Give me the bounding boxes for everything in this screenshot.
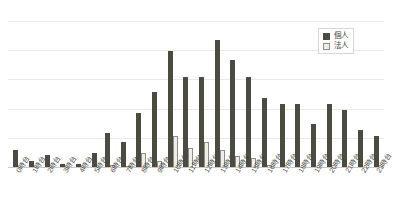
bar-slot — [227, 22, 243, 168]
bar-slot — [102, 22, 118, 168]
bar-kojin — [358, 130, 363, 168]
bar-kojin — [311, 124, 316, 168]
bar-slot — [368, 22, 384, 168]
x-label-slot: 6時台 — [102, 168, 118, 210]
x-label-slot: 9時台 — [149, 168, 165, 210]
bar-slot — [165, 22, 181, 168]
legend-label-kojin: 個人 — [334, 32, 348, 40]
x-label-slot: 16時台 — [259, 168, 275, 210]
bar-slot — [180, 22, 196, 168]
x-label-slot: 4時台 — [71, 168, 87, 210]
x-label-slot: 5時台 — [86, 168, 102, 210]
x-label-slot: 11時台 — [180, 168, 196, 210]
bar-slot — [118, 22, 134, 168]
bar-slot — [8, 22, 24, 168]
x-label-slot: 8時台 — [133, 168, 149, 210]
legend-swatch-kojin — [323, 33, 330, 40]
x-label-slot: 18時台 — [290, 168, 306, 210]
bar-slot — [353, 22, 369, 168]
x-label-slot: 7時台 — [118, 168, 134, 210]
bar-kojin — [215, 40, 220, 168]
x-label-slot: 12時台 — [196, 168, 212, 210]
x-label-slot: 2時台 — [39, 168, 55, 210]
x-label-slot: 3時台 — [55, 168, 71, 210]
x-label-slot: 23時台 — [368, 168, 384, 210]
legend-swatch-hojin — [323, 43, 330, 50]
bar-slot — [196, 22, 212, 168]
x-label-slot: 1時台 — [24, 168, 40, 210]
bar-slot — [243, 22, 259, 168]
x-label-slot: 0時台 — [8, 168, 24, 210]
bar-slot — [55, 22, 71, 168]
x-label-slot: 14時台 — [227, 168, 243, 210]
bar-slot — [24, 22, 40, 168]
bar-slot — [133, 22, 149, 168]
x-label-slot: 21時台 — [337, 168, 353, 210]
legend: 個人 法人 — [318, 28, 354, 54]
legend-item-hojin: 法人 — [323, 42, 348, 50]
x-label-slot: 15時台 — [243, 168, 259, 210]
bar-slot — [259, 22, 275, 168]
x-label-slot: 19時台 — [306, 168, 322, 210]
bar-slot — [212, 22, 228, 168]
x-label-slot: 10時台 — [165, 168, 181, 210]
bar-slot — [86, 22, 102, 168]
bar-slot — [274, 22, 290, 168]
x-axis-labels: 0時台1時台2時台3時台4時台5時台6時台7時台8時台9時台10時台11時台12… — [8, 168, 384, 210]
bar-slot — [71, 22, 87, 168]
bar-slot — [39, 22, 55, 168]
bar-slot — [290, 22, 306, 168]
x-label-slot: 22時台 — [353, 168, 369, 210]
x-label-slot: 17時台 — [274, 168, 290, 210]
x-label-slot: 13時台 — [212, 168, 228, 210]
legend-item-kojin: 個人 — [323, 32, 348, 40]
legend-label-hojin: 法人 — [334, 42, 348, 50]
x-label-slot: 20時台 — [321, 168, 337, 210]
bar-slot — [149, 22, 165, 168]
